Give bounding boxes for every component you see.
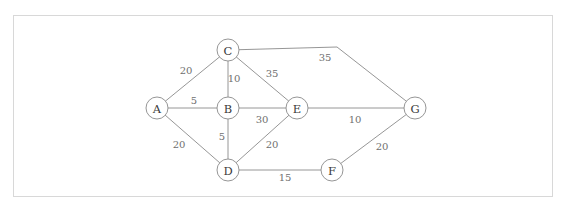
diagram-canvas: 2052010353530520151020 ABCDEFG bbox=[0, 0, 565, 209]
edge-weight-c-e: 35 bbox=[266, 68, 279, 79]
edge-weight-c-g: 35 bbox=[319, 52, 332, 63]
graph-node-b: B bbox=[217, 97, 239, 119]
edge-weight-f-g: 20 bbox=[376, 141, 389, 152]
node-label-f: F bbox=[328, 164, 336, 178]
diagram-frame bbox=[14, 16, 553, 197]
graph-node-f: F bbox=[321, 159, 343, 181]
graph-node-d: D bbox=[217, 159, 239, 181]
graph-node-c: C bbox=[217, 39, 239, 61]
node-label-g: G bbox=[410, 102, 419, 116]
node-label-b: B bbox=[224, 102, 232, 116]
edge-weight-e-g: 10 bbox=[349, 114, 362, 125]
node-label-c: C bbox=[224, 44, 233, 58]
edge-weight-a-c: 20 bbox=[180, 65, 193, 76]
graph-svg: 2052010353530520151020 ABCDEFG bbox=[0, 0, 565, 209]
edge-weight-d-e: 20 bbox=[266, 139, 279, 150]
graph-node-a: A bbox=[146, 97, 168, 119]
edge-weight-b-d: 5 bbox=[219, 131, 225, 142]
edge-weight-c-b: 10 bbox=[228, 73, 241, 84]
edge-weight-a-d: 20 bbox=[173, 139, 186, 150]
edge-weight-d-f: 15 bbox=[279, 172, 292, 183]
graph-node-e: E bbox=[286, 97, 308, 119]
edge-weight-b-e: 30 bbox=[256, 114, 269, 125]
edge-weight-a-b: 5 bbox=[191, 95, 197, 106]
node-label-d: D bbox=[223, 164, 232, 178]
graph-node-g: G bbox=[404, 97, 426, 119]
node-label-e: E bbox=[293, 102, 301, 116]
node-label-a: A bbox=[152, 102, 162, 116]
